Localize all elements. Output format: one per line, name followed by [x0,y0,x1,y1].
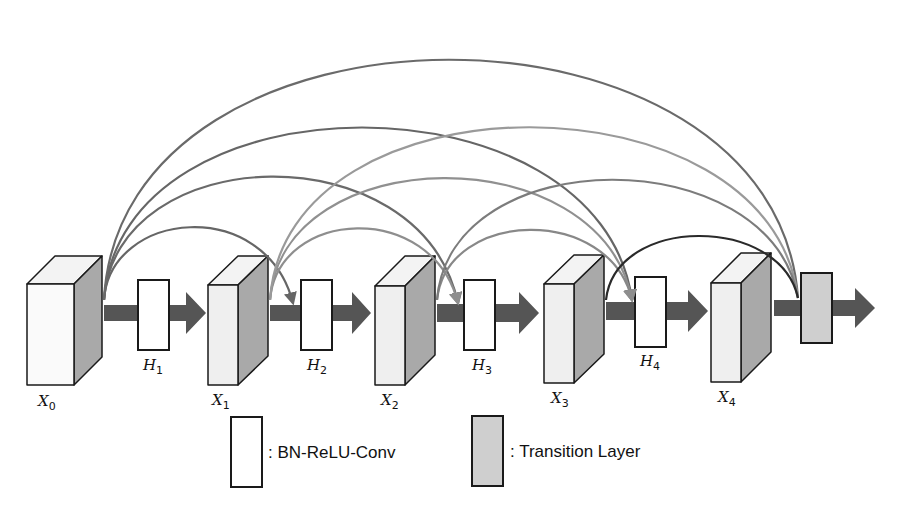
label-x3: X3 [550,389,569,410]
dense-connections [104,60,798,303]
legend-swatch-transition [472,416,503,486]
feature-map-x4 [711,253,771,382]
label-x0: X0 [37,392,56,413]
label-x1: X1 [211,391,230,412]
label-x2: X2 [380,391,399,412]
label-h2: H2 [306,356,327,377]
label-h3: H3 [471,356,492,377]
layer-h1-block [138,280,169,350]
arc-x0-h4 [104,128,632,301]
feature-map-x0 [27,256,102,385]
legend: : BN-ReLU-Conv : Transition Layer [231,416,641,487]
legend-label-conv: : BN-ReLU-Conv [268,443,396,462]
densenet-diagram: X0 X1 X2 X3 X4 H1 H2 H3 H4 : BN-ReLU-Con… [0,0,901,516]
feature-map-x1 [208,256,268,385]
arc-x1-transition [270,127,798,300]
label-h1: H1 [142,356,163,377]
feature-map-x2 [375,256,435,385]
feature-map-labels: X0 X1 X2 X3 X4 [37,388,736,413]
layer-h2-block [301,280,332,350]
transition-layer-block [801,273,832,343]
label-x4: X4 [717,388,736,409]
legend-swatch-conv [231,417,262,487]
feature-map-x3 [544,255,604,383]
legend-label-transition: : Transition Layer [510,442,641,461]
layer-h3-block [464,280,495,350]
layer-h4-block [635,277,666,347]
label-h4: H4 [639,352,660,373]
